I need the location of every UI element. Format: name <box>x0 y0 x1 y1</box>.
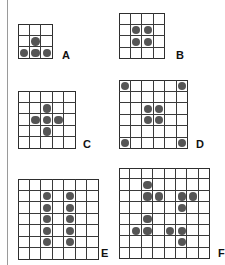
puzzle-label-b: B <box>176 50 184 61</box>
grid-cell <box>64 179 76 191</box>
grid-cell <box>119 191 130 202</box>
grid-cell <box>30 191 42 203</box>
grid-cell <box>131 138 143 150</box>
counter-dot-icon <box>144 105 152 113</box>
grid-cell <box>177 115 189 127</box>
grid-cell <box>18 36 30 48</box>
grid-cell <box>187 225 198 236</box>
grid-cell <box>41 179 53 191</box>
grid-cell <box>130 214 141 225</box>
grid-cell <box>53 202 65 214</box>
grid-cell <box>64 114 76 126</box>
counter-dot-icon <box>66 204 74 212</box>
grid-cell <box>187 236 198 247</box>
grid-cell <box>18 214 30 226</box>
grid-cell <box>142 13 154 25</box>
counter-dot-icon <box>31 116 39 124</box>
grid-cell <box>30 237 42 249</box>
grid-cell <box>30 126 42 138</box>
grid-cell <box>30 103 42 115</box>
grid-cell <box>30 248 42 260</box>
grid-cell <box>154 36 166 48</box>
grid-cell <box>187 168 198 179</box>
grid-cell <box>41 91 53 103</box>
counter-dot-icon <box>143 215 151 223</box>
grid-cell <box>154 80 166 92</box>
grid-cell <box>154 13 166 25</box>
puzzle-grid-a <box>18 24 53 59</box>
grid-cell <box>176 248 187 259</box>
grid-cell <box>177 126 189 138</box>
grid-cell <box>165 103 177 115</box>
counter-dot-icon <box>178 238 186 246</box>
grid-cell <box>154 48 166 60</box>
grid-cell <box>142 92 154 104</box>
puzzle-grid-b <box>119 13 165 59</box>
puzzle-grid-c <box>18 91 76 149</box>
grid-cell <box>131 103 143 115</box>
grid-cell <box>187 179 198 190</box>
grid-cell <box>30 225 42 237</box>
grid-cell <box>30 202 42 214</box>
grid-cell <box>165 80 177 92</box>
grid-cell <box>165 248 176 259</box>
grid-cell <box>165 179 176 190</box>
grid-cell <box>119 214 130 225</box>
grid-cell <box>76 179 88 191</box>
counter-dot-icon <box>178 192 186 200</box>
counter-dot-icon <box>143 227 151 235</box>
puzzle-label-f: F <box>218 248 225 259</box>
grid-cell <box>142 126 154 138</box>
grid-cell <box>18 126 30 138</box>
puzzle-grid-e <box>18 179 99 260</box>
grid-cell <box>119 236 130 247</box>
grid-cell <box>153 179 164 190</box>
grid-cell <box>18 114 30 126</box>
grid-cell <box>130 248 141 259</box>
counter-dot-icon <box>132 227 140 235</box>
grid-cell <box>131 13 143 25</box>
grid-cell <box>165 214 176 225</box>
puzzle-grid-d <box>119 80 188 149</box>
grid-cell <box>119 202 130 213</box>
grid-cell <box>18 225 30 237</box>
grid-cell <box>119 115 131 127</box>
grid-cell <box>87 191 99 203</box>
grid-cell <box>41 36 53 48</box>
grid-cell <box>130 179 141 190</box>
grid-cell <box>176 168 187 179</box>
grid-cell <box>53 179 65 191</box>
grid-cell <box>53 91 65 103</box>
grid-cell <box>87 248 99 260</box>
grid-cell <box>53 248 65 260</box>
grid-cell <box>142 202 153 213</box>
grid-cell <box>18 103 30 115</box>
grid-cell <box>18 137 30 149</box>
grid-cell <box>64 103 76 115</box>
grid-cell <box>18 202 30 214</box>
grid-cell <box>199 202 210 213</box>
counter-dot-icon <box>144 38 152 46</box>
grid-cell <box>199 214 210 225</box>
grid-cell <box>142 168 153 179</box>
grid-cell <box>18 191 30 203</box>
grid-cell <box>30 179 42 191</box>
grid-cell <box>64 137 76 149</box>
grid-cell <box>154 138 166 150</box>
grid-cell <box>142 48 154 60</box>
grid-cell <box>130 236 141 247</box>
grid-cell <box>199 225 210 236</box>
grid-cell <box>153 214 164 225</box>
grid-cell <box>187 248 198 259</box>
grid-cell <box>18 179 30 191</box>
counter-dot-icon <box>43 104 51 112</box>
grid-cell <box>119 36 131 48</box>
grid-cell <box>18 248 30 260</box>
grid-cell <box>176 179 187 190</box>
grid-cell <box>165 168 176 179</box>
grid-cell <box>30 137 42 149</box>
grid-cell <box>119 48 131 60</box>
grid-cell <box>142 248 153 259</box>
puzzle-label-d: D <box>196 139 204 150</box>
grid-cell <box>119 103 131 115</box>
